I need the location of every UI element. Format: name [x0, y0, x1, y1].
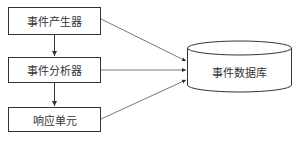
analyzer-label: 事件分析器	[8, 62, 101, 78]
response-label: 响应单元	[8, 112, 101, 128]
database-label: 事件数据库	[187, 64, 292, 80]
generator-label: 事件产生器	[8, 13, 101, 29]
arrow-response-database	[101, 80, 186, 119]
arrow-generator-database	[101, 19, 186, 61]
